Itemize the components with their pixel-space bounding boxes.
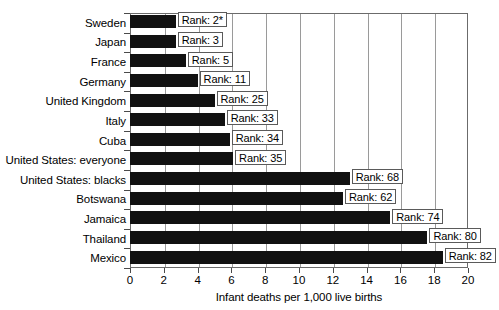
category-label: United States: everyone: [0, 153, 126, 167]
bar-row: Rank: 3: [130, 33, 468, 53]
x-axis-tick: [367, 268, 368, 273]
y-axis-tick: [124, 52, 130, 53]
y-axis-tick: [124, 91, 130, 92]
x-axis-tick-label: 2: [149, 274, 179, 287]
y-axis-tick: [124, 131, 130, 132]
x-axis-tick: [130, 268, 131, 273]
category-label: Jamaica: [0, 212, 126, 226]
rank-annotation: Rank: 2*: [178, 12, 227, 27]
x-axis-tick: [400, 268, 401, 273]
x-axis-tick-label: 12: [318, 274, 348, 287]
category-label: Thailand: [0, 232, 126, 246]
y-axis-tick: [124, 209, 130, 210]
x-axis-tick: [198, 268, 199, 273]
category-label: Italy: [0, 114, 126, 128]
category-label: France: [0, 55, 126, 69]
rank-annotation: Rank: 34: [232, 130, 283, 145]
y-axis-tick: [124, 248, 130, 249]
bar: [130, 192, 343, 205]
x-axis-tick: [299, 268, 300, 273]
x-axis-tick: [434, 268, 435, 273]
rank-annotation: Rank: 74: [392, 209, 443, 224]
category-label: Sweden: [0, 16, 126, 30]
bar-row: Rank: 80: [130, 229, 468, 249]
bar: [130, 251, 443, 264]
x-axis-tick-label: 6: [216, 274, 246, 287]
bar: [130, 113, 225, 126]
category-label: United States: blacks: [0, 173, 126, 187]
rank-annotation: Rank: 11: [200, 71, 250, 86]
bar: [130, 54, 186, 67]
rank-annotation: Rank: 5: [188, 52, 233, 67]
bar-row: Rank: 5: [130, 52, 468, 72]
category-label: United Kingdom: [0, 94, 126, 108]
category-axis-labels: SwedenJapanFranceGermanyUnited KingdomIt…: [0, 13, 126, 268]
rank-annotation: Rank: 25: [217, 91, 268, 106]
x-axis-tick-label: 0: [115, 274, 145, 287]
x-axis-tick-label: 8: [250, 274, 280, 287]
bar: [130, 35, 176, 48]
y-axis-tick: [124, 13, 130, 14]
bar-series: Rank: 2*Rank: 3Rank: 5Rank: 11Rank: 25Ra…: [130, 13, 468, 268]
bar: [130, 74, 198, 87]
rank-annotation: Rank: 62: [345, 189, 396, 204]
y-axis-tick: [124, 33, 130, 34]
y-axis-tick: [124, 268, 130, 269]
x-axis-tick: [333, 268, 334, 273]
bar-row: Rank: 33: [130, 111, 468, 131]
category-label: Japan: [0, 35, 126, 49]
rank-annotation: Rank: 3: [178, 32, 223, 47]
y-axis-tick: [124, 170, 130, 171]
bar: [130, 133, 230, 146]
bar: [130, 94, 215, 107]
y-axis-tick: [124, 111, 130, 112]
x-axis-tick-label: 4: [183, 274, 213, 287]
bar-row: Rank: 35: [130, 150, 468, 170]
bar-row: Rank: 11: [130, 72, 468, 92]
bar-row: Rank: 68: [130, 170, 468, 190]
rank-annotation: Rank: 33: [227, 110, 278, 125]
category-label: Cuba: [0, 134, 126, 148]
y-axis-tick: [124, 72, 130, 73]
bar: [130, 15, 176, 28]
bar-row: Rank: 2*: [130, 13, 468, 33]
bar-row: Rank: 82: [130, 248, 468, 268]
x-axis-tick-label: 20: [453, 274, 483, 287]
x-axis-tick-label: 14: [352, 274, 382, 287]
rank-annotation: Rank: 80: [429, 228, 480, 243]
y-axis-tick: [124, 150, 130, 151]
x-axis-tick: [164, 268, 165, 273]
bar: [130, 152, 233, 165]
rank-annotation: Rank: 35: [235, 150, 286, 165]
bar: [130, 231, 427, 244]
category-label: Mexico: [0, 251, 126, 265]
rank-annotation: Rank: 82: [445, 248, 496, 263]
x-axis-tick-label: 18: [419, 274, 449, 287]
bar: [130, 211, 390, 224]
y-axis-tick: [124, 190, 130, 191]
x-axis-tick: [468, 268, 469, 273]
y-axis-tick: [124, 229, 130, 230]
category-label: Botswana: [0, 192, 126, 206]
rank-annotation: Rank: 68: [352, 169, 403, 184]
x-axis-tick: [265, 268, 266, 273]
bar: [130, 172, 350, 185]
infant-mortality-bar-chart: SwedenJapanFranceGermanyUnited KingdomIt…: [0, 0, 499, 310]
bar-row: Rank: 62: [130, 190, 468, 210]
bar-row: Rank: 25: [130, 91, 468, 111]
category-label: Germany: [0, 75, 126, 89]
x-axis-title: Infant deaths per 1,000 live births: [130, 290, 468, 304]
x-axis-tick-label: 10: [284, 274, 314, 287]
x-axis-tick-label: 16: [385, 274, 415, 287]
x-axis-tick: [231, 268, 232, 273]
bar-row: Rank: 34: [130, 131, 468, 151]
bar-row: Rank: 74: [130, 209, 468, 229]
